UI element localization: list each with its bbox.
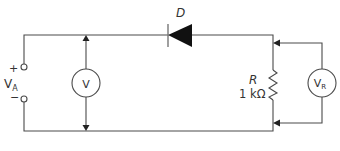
resistor-label: R: [249, 73, 257, 87]
probe-top-wire: [279, 43, 322, 69]
wire-top-right: [192, 35, 273, 70]
voltmeter-resistor: VR: [273, 40, 336, 127]
arrow-up-icon: [83, 35, 90, 41]
resistor: R 1 kΩ: [239, 70, 277, 101]
circuit-diagram: + − VA V D R 1 kΩ VR: [0, 0, 340, 151]
resistor-value: 1 kΩ: [239, 87, 266, 101]
voltmeter-label: V: [82, 78, 90, 91]
plus-sign: +: [9, 62, 18, 75]
terminal-positive: [21, 64, 27, 70]
wires: [24, 35, 273, 131]
source-terminals: + − VA: [4, 62, 27, 104]
source-label: VA: [4, 77, 18, 93]
wire-bottom: [24, 100, 273, 131]
arrow-left-icon: [273, 120, 280, 127]
resistor-zigzag-icon: [269, 70, 277, 100]
probe-bottom-wire: [279, 97, 322, 123]
terminal-negative: [21, 96, 27, 102]
diode-triangle-icon: [168, 24, 192, 47]
diode: D: [168, 6, 192, 47]
diode-label: D: [176, 6, 185, 20]
arrow-left-icon: [273, 40, 280, 47]
voltmeter-source: V: [72, 35, 100, 131]
wire-top-left: [24, 35, 168, 64]
arrow-down-icon: [83, 125, 90, 131]
